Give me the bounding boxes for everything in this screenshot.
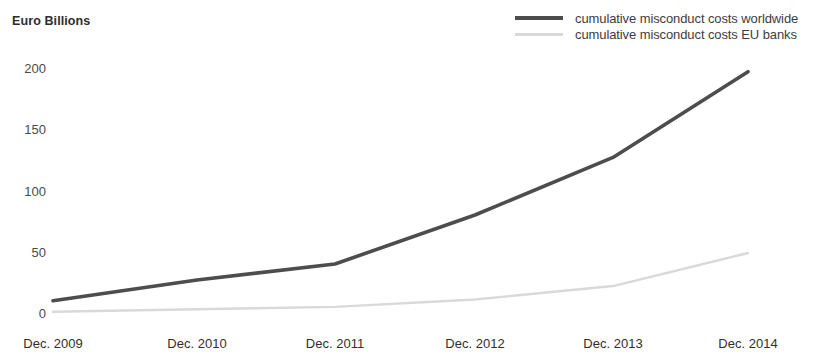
y-axis-tick-label: 200 [0,62,46,75]
plot-area [0,0,838,362]
y-axis-title: Euro Billions [12,14,90,28]
chart-container: Euro Billions cumulative misconduct cost… [0,0,838,362]
series-line-worldwide [53,72,748,301]
x-axis-tick-label: Dec. 2014 [718,337,777,350]
legend-swatch-worldwide [515,16,563,20]
x-axis-tick-label: Dec. 2013 [583,337,642,350]
legend-label-eu-banks: cumulative misconduct costs EU banks [575,27,797,42]
y-axis-tick-label: 50 [0,246,46,259]
chart-legend: cumulative misconduct costs worldwide cu… [515,10,835,42]
y-axis-tick-label: 150 [0,123,46,136]
x-axis-tick-label: Dec. 2011 [306,337,364,350]
legend-swatch-eu-banks [515,33,563,36]
x-axis-tick-label: Dec. 2012 [445,337,504,350]
x-axis-tick-label: Dec. 2009 [23,337,82,350]
y-axis-tick-label: 0 [0,307,46,320]
y-axis-tick-label: 100 [0,185,46,198]
x-axis-tick-label: Dec. 2010 [167,337,226,350]
series-line-eu-banks [53,253,748,312]
legend-label-worldwide: cumulative misconduct costs worldwide [575,11,798,26]
legend-item-worldwide: cumulative misconduct costs worldwide [515,10,835,26]
legend-item-eu-banks: cumulative misconduct costs EU banks [515,26,835,42]
